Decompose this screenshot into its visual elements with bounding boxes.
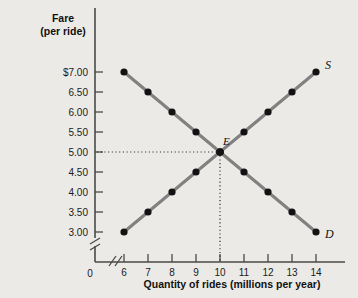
x-tick-label: 10	[214, 267, 226, 278]
data-point	[144, 208, 151, 215]
y-tick-label: 6.00	[69, 107, 89, 118]
data-point	[240, 168, 247, 175]
y-tick-label: $7.00	[63, 67, 88, 78]
x-tick-label: 7	[145, 267, 151, 278]
data-point	[120, 68, 127, 75]
y-axis-title-line1: Fare	[52, 12, 74, 24]
data-point	[144, 88, 151, 95]
y-axis-title-line2: (per ride)	[40, 25, 86, 37]
x-tick-label: 11	[239, 267, 250, 278]
data-point	[192, 168, 199, 175]
data-point	[168, 108, 175, 115]
y-tick-label: 4.00	[69, 187, 89, 198]
x-tick-label: 13	[286, 267, 298, 278]
data-point	[192, 128, 199, 135]
y-tick-label: 3.50	[69, 207, 89, 218]
data-point	[264, 188, 271, 195]
x-axis-title: Quantity of rides (millions per year)	[144, 278, 321, 290]
curve-label-group: DS	[324, 58, 334, 241]
x-tick-label: 12	[262, 267, 274, 278]
data-point	[240, 128, 247, 135]
x-axis-break-icon	[109, 256, 122, 266]
data-point	[288, 88, 295, 95]
y-tick-label: 4.50	[69, 167, 89, 178]
chart-canvas: Fare (per ride) 0 $7.006.506.005.505.004…	[0, 0, 358, 298]
y-tick-label: 5.50	[69, 127, 89, 138]
data-point	[312, 228, 319, 235]
equilibrium-label: E	[222, 135, 230, 147]
curve-label-S: S	[325, 58, 331, 72]
x-tick-group: 67891011121314	[121, 254, 322, 278]
x-tick-label: 9	[193, 267, 199, 278]
supply-demand-chart: Fare (per ride) 0 $7.006.506.005.505.004…	[0, 0, 358, 298]
data-point	[120, 228, 127, 235]
equilibrium-point	[216, 148, 224, 156]
y-tick-label: 5.00	[69, 147, 89, 158]
annotation-group: E	[216, 135, 230, 156]
data-point	[312, 68, 319, 75]
y-tick-group: $7.006.506.005.505.004.504.003.503.00	[63, 67, 103, 238]
data-point	[264, 108, 271, 115]
x-tick-label: 8	[169, 267, 175, 278]
y-tick-label: 6.50	[69, 87, 89, 98]
x-tick-label: 6	[121, 267, 127, 278]
y-tick-label: 3.00	[69, 227, 89, 238]
origin-label: 0	[87, 268, 93, 279]
data-point	[288, 208, 295, 215]
x-tick-label: 14	[310, 267, 322, 278]
data-point	[168, 188, 175, 195]
curve-label-D: D	[324, 227, 334, 241]
